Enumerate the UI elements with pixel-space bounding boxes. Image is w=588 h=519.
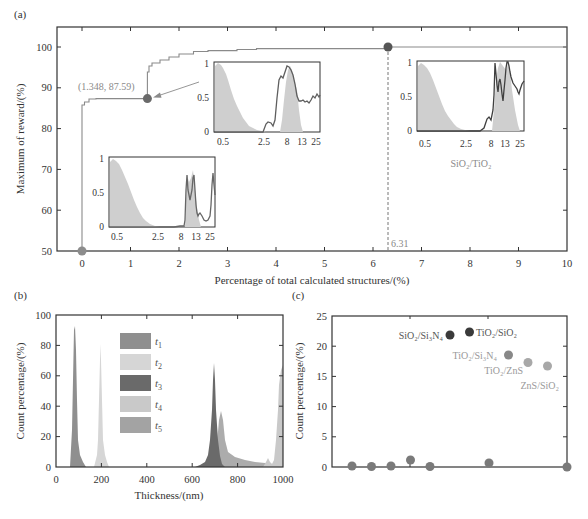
x-tick-label: 6 <box>370 258 375 269</box>
scatter-point-zns-sio2 <box>543 362 552 371</box>
y-tick-label: 5 <box>322 431 327 442</box>
x-tick-label: 1 <box>128 258 133 269</box>
inset-lower-left: 0 0.5 1 0.5 2.5 8 13 25 <box>92 154 215 242</box>
highlight-point-marker <box>143 94 152 103</box>
panel-b: (b) 0 200 400 <box>14 289 294 502</box>
panel-c-y-axis-label: Count percentage/(%) <box>293 342 306 439</box>
inset-x-tick-label: 2.5 <box>152 232 164 242</box>
panel-a-y-tick-labels: 50 60 70 80 90 100 <box>36 42 52 257</box>
inset-middle: 0 0.5 1 0.5 2.5 8 13 25 <box>197 59 321 147</box>
y-tick-label: 90 <box>42 82 53 93</box>
inset-x-tick-label: 0.5 <box>111 232 123 242</box>
x-tick-label: 9 <box>516 258 521 269</box>
inset-x-tick-label: 8 <box>285 137 290 147</box>
x-tick-label: 800 <box>230 474 246 485</box>
label-zns-sio2: ZnS/SiO₂ <box>521 380 560 391</box>
scatter-point <box>387 462 396 471</box>
material-label-sio2-tio2: SiO₂/TiO₂ <box>450 158 491 169</box>
y-tick-label: 0 <box>322 462 327 473</box>
panel-a-x-axis-label: Percentage of total calculated structure… <box>215 274 410 287</box>
legend-swatch-t4 <box>120 396 151 412</box>
panel-b-ticks <box>56 315 283 467</box>
scatter-point <box>563 463 572 472</box>
x-tick-label: 4 <box>273 258 279 269</box>
panel-b-legend: t1 t2 t3 t4 t5 <box>120 333 162 434</box>
legend-label-t5: t5 <box>155 419 162 434</box>
inset-y-tick-label: 1 <box>407 58 412 68</box>
inset-x-tick-label: 0.5 <box>217 137 229 147</box>
x-tick-label: 600 <box>184 474 200 485</box>
max-point-marker <box>384 43 393 52</box>
y-tick-label: 15 <box>317 371 328 382</box>
scatter-point <box>426 462 435 471</box>
inset-x-tick-label: 25 <box>205 232 215 242</box>
x-tick-label: 3 <box>225 258 230 269</box>
inset-x-tick-label: 13 <box>191 232 201 242</box>
inset-y-tick-label: 0 <box>204 127 209 137</box>
inset-x-tick-label: 8 <box>489 139 494 149</box>
legend-label-t1: t1 <box>155 335 162 350</box>
x-tick-label: 400 <box>139 474 155 485</box>
y-tick-label: 60 <box>42 205 53 216</box>
inset-y-tick-label: 1 <box>99 154 104 164</box>
y-tick-label: 0 <box>46 462 51 473</box>
legend-swatch-t5 <box>120 417 151 433</box>
threshold-label: 6.31 <box>391 238 409 249</box>
x-tick-label: 200 <box>94 474 110 485</box>
x-tick-label: 10 <box>562 258 573 269</box>
label-tio2-zns: TiO₂/ZnS <box>484 365 523 376</box>
inset-x-tick-label: 2.5 <box>258 137 270 147</box>
label-sio2-si3n4: SiO₂/Si₃N₄ <box>399 330 444 341</box>
y-tick-label: 100 <box>36 42 52 53</box>
panel-b-y-tick-labels: 0 20 40 60 80 100 <box>35 310 51 473</box>
legend-label-t2: t2 <box>155 356 162 371</box>
panel-c-point-labels: SiO₂/Si₃N₄ TiO₂/SiO₂ TiO₂/Si₃N₄ TiO₂/ZnS… <box>399 327 559 391</box>
panel-b-axes-frame <box>56 315 283 467</box>
y-tick-label: 80 <box>42 123 53 134</box>
area-t2 <box>94 344 109 467</box>
inset-y-tick-label: 0.5 <box>197 93 209 103</box>
panel-c: (c) 0 5 10 15 20 25 Count percentage/(%) <box>292 289 572 473</box>
y-tick-label: 100 <box>35 310 51 321</box>
inset-x-tick-label: 25 <box>515 139 525 149</box>
panel-b-x-axis-label: Thickness/(nm) <box>134 489 203 502</box>
scatter-point <box>406 456 415 465</box>
annotation-arrow <box>156 82 199 97</box>
scatter-point <box>485 459 494 468</box>
y-tick-label: 20 <box>317 341 328 352</box>
panel-b-tag: (b) <box>14 289 27 302</box>
y-tick-label: 25 <box>317 311 328 322</box>
x-tick-label: 0 <box>79 258 84 269</box>
label-tio2-sio2: TiO₂/SiO₂ <box>476 327 517 338</box>
scatter-point-tio2-zns <box>524 358 533 367</box>
inset-y-tick-label: 0 <box>99 222 104 232</box>
x-tick-label: 0 <box>53 474 58 485</box>
inset-right: 0 0.5 1 0.5 2.5 8 13 25 SiO₂/TiO₂ <box>400 58 525 169</box>
inset-y-tick-label: 0.5 <box>400 92 412 102</box>
legend-label-t3: t3 <box>155 377 162 392</box>
inset-x-tick-label: 2.5 <box>460 139 472 149</box>
y-tick-label: 80 <box>41 340 52 351</box>
panel-a-tag: (a) <box>14 8 27 21</box>
inset-x-tick-label: 0.5 <box>419 139 431 149</box>
scatter-point-sio2-si3n4 <box>446 331 455 340</box>
panel-b-y-axis-label: Count percentage/(%) <box>14 342 27 439</box>
arrowhead-icon <box>153 93 162 98</box>
scatter-point-tio2-sio2 <box>465 328 474 337</box>
legend-label-t4: t4 <box>155 398 162 413</box>
start-point-marker <box>78 247 87 256</box>
y-tick-label: 60 <box>41 370 52 381</box>
panel-b-areas <box>70 326 283 467</box>
x-tick-label: 7 <box>419 258 424 269</box>
scatter-point <box>367 462 376 471</box>
legend-swatch-t2 <box>120 354 151 370</box>
legend-swatch-t3 <box>120 375 151 391</box>
figure: (a) 0 1 2 3 <box>0 0 588 519</box>
inset-x-tick-label: 8 <box>179 232 184 242</box>
panel-a-x-tick-labels: 0 1 2 3 4 5 6 7 8 9 10 <box>79 258 572 269</box>
inset-x-tick-label: 25 <box>311 137 321 147</box>
y-tick-label: 20 <box>41 431 52 442</box>
y-tick-label: 50 <box>42 246 53 257</box>
label-tio2-si3n4: TiO₂/Si₃N₄ <box>452 350 497 361</box>
inset-x-tick-label: 13 <box>297 137 307 147</box>
